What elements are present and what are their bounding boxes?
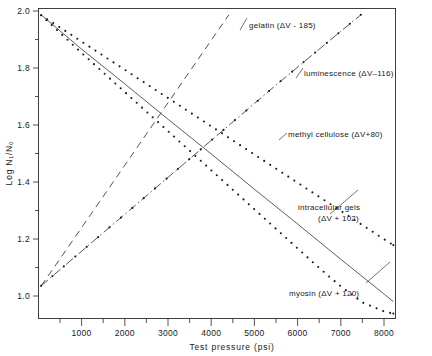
data-point [305, 187, 307, 189]
data-point [382, 310, 384, 312]
data-point [70, 34, 72, 36]
data-point [52, 22, 54, 24]
data-point [104, 73, 106, 75]
data-point [389, 312, 391, 314]
data-point [120, 217, 122, 219]
x-tick-label: 1000 [72, 328, 92, 338]
data-point [82, 42, 84, 44]
data-point [323, 199, 325, 201]
data-point [222, 129, 224, 131]
data-point [226, 184, 228, 186]
data-point [362, 302, 364, 304]
data-point [285, 237, 287, 239]
y-tick-label: 1.8 [17, 63, 30, 73]
data-point [290, 242, 292, 244]
data-point [227, 136, 229, 138]
data-point [384, 239, 386, 241]
x-axis-ticks [60, 319, 384, 327]
data-point [177, 168, 179, 170]
data-point [349, 23, 351, 25]
data-point [312, 261, 314, 263]
data-point [360, 223, 362, 225]
data-point [61, 34, 63, 36]
data-point [125, 69, 127, 71]
data-point [205, 165, 207, 167]
data-point [149, 85, 151, 87]
data-point [179, 105, 181, 107]
series-label-intracellular-gels-dv: (ΔV + 102) [318, 214, 359, 223]
data-point [146, 111, 148, 113]
x-tick-label: 2000 [115, 328, 135, 338]
data-point [314, 51, 316, 53]
data-point [203, 120, 205, 122]
data-point [239, 144, 241, 146]
data-point [141, 107, 143, 109]
data-point [155, 89, 157, 91]
data-point [210, 169, 212, 171]
data-point [211, 139, 213, 141]
data-point [376, 307, 378, 309]
curve-line [41, 15, 393, 302]
y-axis-ticks [33, 11, 39, 296]
data-point [100, 53, 102, 55]
figure-container: 2.0 1.8 1.6 1.4 1.2 1.0 Log N₁/N₀ [0, 0, 432, 356]
data-point [378, 235, 380, 237]
data-point [178, 140, 180, 142]
data-point [232, 189, 234, 191]
plot-frame [39, 9, 396, 319]
data-point [157, 121, 159, 123]
data-point [221, 132, 223, 134]
series-label-gelatin: gelatin (ΔV - 185) [249, 21, 316, 30]
data-point [366, 227, 368, 229]
data-point [221, 179, 223, 181]
data-point [137, 77, 139, 79]
data-point [120, 87, 122, 89]
data-point [130, 97, 132, 99]
data-point [215, 128, 217, 130]
y-tick-label: 1.4 [17, 177, 30, 187]
data-point [306, 256, 308, 258]
y-tick-label: 2.0 [17, 6, 30, 16]
data-point [86, 246, 88, 248]
data-point [264, 218, 266, 220]
y-tick-label: 1.2 [17, 234, 30, 244]
data-point [82, 53, 84, 55]
data-point [40, 285, 42, 287]
data-point [94, 50, 96, 52]
x-axis-title: Test pressure (psi) [189, 342, 274, 352]
data-point [311, 191, 313, 193]
data-point [109, 78, 111, 80]
x-tick-label: 8000 [374, 328, 394, 338]
data-point [269, 223, 271, 225]
data-point [257, 100, 259, 102]
data-point [209, 124, 211, 126]
series-layer [40, 14, 394, 315]
data-point [191, 113, 193, 115]
data-point [237, 194, 239, 196]
data-point [392, 313, 394, 315]
data-point [88, 46, 90, 48]
data-point [369, 305, 371, 307]
data-point [251, 152, 253, 154]
data-point [167, 97, 169, 99]
data-point [392, 244, 394, 246]
data-point [114, 82, 116, 84]
data-point [77, 49, 79, 51]
data-point [291, 71, 293, 73]
data-point [253, 208, 255, 210]
data-point [242, 198, 244, 200]
data-point [234, 119, 236, 121]
data-point [131, 207, 133, 209]
data-point [326, 42, 328, 44]
x-axis-tick-labels: 1000 2000 3000 4000 5000 6000 7000 8000 [72, 328, 395, 338]
data-point [136, 102, 138, 104]
series-label-intracellular-gels: intracellular gels [298, 203, 360, 212]
data-point [143, 197, 145, 199]
data-point [263, 160, 265, 162]
x-tick-label: 3000 [158, 328, 178, 338]
data-point [275, 168, 277, 170]
data-point [108, 226, 110, 228]
series-myosin [40, 14, 394, 314]
data-point [200, 148, 202, 150]
x-tick-label: 5000 [244, 328, 264, 338]
